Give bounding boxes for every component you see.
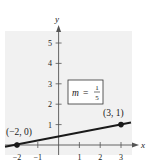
point-label: (−2, 0) xyxy=(6,127,32,138)
slope-chart: x −2 −1 1 2 3 y 1 2 3 4 5 (−2, 0) (3, 1) xyxy=(0,0,149,166)
x-tick-label: −2 xyxy=(13,153,22,162)
slope-text: m xyxy=(72,88,79,98)
y-tick-label: 1 xyxy=(48,121,52,130)
data-point xyxy=(14,142,20,148)
y-tick-label: 2 xyxy=(48,100,52,109)
y-tick-label: 3 xyxy=(48,80,52,89)
data-point xyxy=(118,122,124,128)
x-tick-label: 2 xyxy=(98,153,102,162)
y-axis-label: y xyxy=(54,14,59,24)
slope-denominator: 5 xyxy=(95,94,99,102)
y-tick-label: 5 xyxy=(48,39,52,48)
y-axis-arrow-icon xyxy=(56,25,61,32)
y-tick-label: 4 xyxy=(48,59,52,68)
x-tick-label: 1 xyxy=(77,153,81,162)
x-axis-arrow-icon xyxy=(132,143,139,148)
point-label: (3, 1) xyxy=(103,108,124,119)
slope-annotation: m = 1 5 xyxy=(68,80,103,104)
x-tick-label: 3 xyxy=(119,153,123,162)
x-axis-label: x xyxy=(140,140,145,150)
slope-numerator: 1 xyxy=(95,84,99,92)
x-tick-label: −1 xyxy=(34,153,43,162)
slope-equals: = xyxy=(83,88,88,98)
